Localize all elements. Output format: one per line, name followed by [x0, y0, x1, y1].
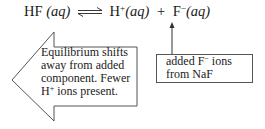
up-arrow-head-icon: [170, 22, 175, 28]
box-line-2: from NaF: [166, 68, 252, 81]
shift-arrow-text: Equilibrium shifts away from added compo…: [41, 46, 137, 98]
shift-line-4: H+ ions present.: [41, 85, 137, 98]
added-ions-text: added F− ions from NaF: [166, 55, 252, 81]
